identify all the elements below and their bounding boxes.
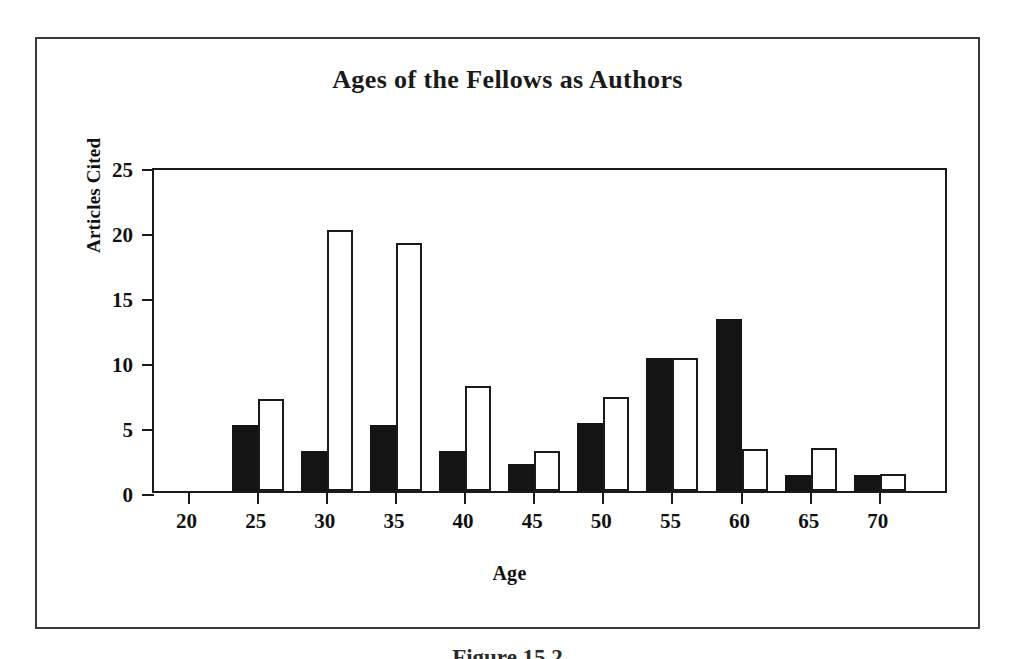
bar-filled-30 <box>301 451 327 491</box>
x-tick-label-35: 35 <box>364 509 424 534</box>
y-tick-25: 25 <box>142 169 154 171</box>
bar-hollow-60 <box>742 449 768 491</box>
y-tick-15: 15 <box>142 299 154 301</box>
y-tick-10: 10 <box>142 364 154 366</box>
x-tick-30 <box>326 491 328 504</box>
x-tick-70 <box>879 491 881 504</box>
bar-filled-70 <box>854 475 880 491</box>
x-tick-label-20: 20 <box>157 509 217 534</box>
x-tick-label-40: 40 <box>433 509 493 534</box>
y-tick-label-20: 20 <box>112 223 133 248</box>
bar-filled-50 <box>577 423 603 491</box>
bar-hollow-25 <box>258 399 284 491</box>
y-tick-20: 20 <box>142 234 154 236</box>
x-tick-40 <box>464 491 466 504</box>
bar-filled-65 <box>785 475 811 491</box>
y-tick-label-10: 10 <box>112 353 133 378</box>
x-tick-label-55: 55 <box>640 509 700 534</box>
y-tick-label-25: 25 <box>112 158 133 183</box>
bar-hollow-45 <box>534 451 560 491</box>
y-tick-label-15: 15 <box>112 288 133 313</box>
x-tick-45 <box>533 491 535 504</box>
bar-filled-25 <box>232 425 258 491</box>
bar-filled-60 <box>716 319 742 491</box>
bar-filled-35 <box>370 425 396 491</box>
x-tick-label-45: 45 <box>502 509 562 534</box>
x-tick-20 <box>188 491 190 504</box>
figure-page-frame: Ages of the Fellows as Authors Articles … <box>35 37 980 629</box>
x-tick-25 <box>257 491 259 504</box>
bar-hollow-55 <box>672 358 698 491</box>
x-tick-label-25: 25 <box>226 509 286 534</box>
x-tick-50 <box>602 491 604 504</box>
bar-hollow-40 <box>465 386 491 491</box>
y-tick-5: 5 <box>142 429 154 431</box>
x-tick-label-50: 50 <box>571 509 631 534</box>
bar-hollow-30 <box>327 230 353 491</box>
x-tick-label-70: 70 <box>848 509 908 534</box>
bar-filled-45 <box>508 464 534 491</box>
x-tick-55 <box>671 491 673 504</box>
figure-caption: Figure 15.2 <box>0 645 1015 659</box>
y-tick-label-0: 0 <box>123 483 134 508</box>
plot-area: 0510152025 <box>152 168 947 493</box>
x-tick-label-30: 30 <box>295 509 355 534</box>
x-tick-60 <box>741 491 743 504</box>
bar-hollow-70 <box>880 474 906 491</box>
y-tick-label-5: 5 <box>123 418 134 443</box>
bar-filled-55 <box>646 358 672 491</box>
bar-filled-40 <box>439 451 465 491</box>
chart-canvas: Articles Cited 0510152025 20253035404550… <box>37 39 982 631</box>
x-tick-label-65: 65 <box>779 509 839 534</box>
x-tick-65 <box>810 491 812 504</box>
bar-hollow-65 <box>811 448 837 491</box>
y-tick-0: 0 <box>142 494 154 496</box>
bar-hollow-35 <box>396 243 422 491</box>
bar-hollow-50 <box>603 397 629 491</box>
y-axis-title: Articles Cited <box>83 138 105 253</box>
x-axis-title: Age <box>37 562 982 585</box>
x-tick-35 <box>395 491 397 504</box>
x-tick-label-60: 60 <box>710 509 770 534</box>
